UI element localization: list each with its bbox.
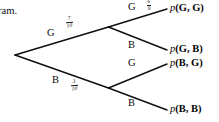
branch-line-bb (109, 88, 168, 110)
page-text-fragment: ram. (0, 6, 17, 17)
branch-probability-gg: 6 9 (147, 0, 151, 11)
outcome-label-bb: p(B, B) (170, 104, 202, 115)
outcome-text: (G, B) (175, 43, 202, 54)
outcome-label-bg: p(B, G) (170, 58, 203, 69)
branch-line-bg (109, 64, 168, 88)
branch-label-b: B (52, 75, 59, 86)
branch-line-g (15, 27, 109, 55)
fraction-denominator: 9 (147, 5, 151, 12)
branch-label-g: G (47, 28, 55, 39)
branch-probability-b: 3 10 (71, 79, 78, 92)
outcome-text: (G, G) (175, 2, 204, 13)
branch-label-bg: G (128, 58, 136, 69)
branch-line-gg (109, 9, 168, 27)
outcome-text: (B, B) (175, 103, 201, 114)
branch-label-gg: G (128, 2, 136, 13)
fraction-denominator: 10 (66, 21, 73, 28)
fraction-denominator: 10 (71, 84, 78, 91)
outcome-text: (B, G) (175, 57, 202, 68)
branch-line-b (15, 55, 109, 88)
branch-label-bb: B (128, 98, 135, 109)
outcome-label-gg: p(G, G) (170, 3, 204, 14)
branch-label-gb: B (128, 40, 135, 51)
branch-probability-g: 7 10 (66, 16, 73, 29)
outcome-label-gb: p(G, B) (170, 44, 203, 55)
probability-tree-diagram: ram. G B 7 10 3 10 G B G B 6 9 p(G, G) p… (0, 0, 219, 122)
branch-line-gb (109, 27, 168, 50)
